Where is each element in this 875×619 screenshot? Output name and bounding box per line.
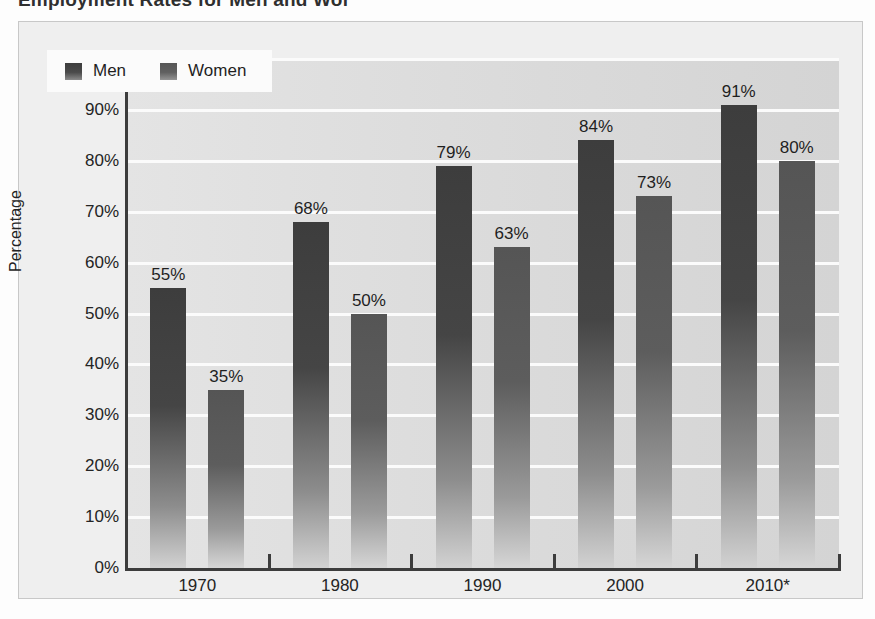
bar-value-label: 91%: [722, 82, 756, 102]
bar-women-1970: 35%: [208, 390, 244, 568]
bar-value-label: 84%: [579, 117, 613, 137]
legend-item-women: Women: [160, 61, 246, 81]
bar-value-label: 68%: [294, 199, 328, 219]
legend-swatch-men-icon: [65, 63, 82, 80]
bar-men-1980: 68%: [293, 222, 329, 568]
cut-off-title-text: Employment Rates for Men and Women: [18, 0, 348, 11]
x-axis-label-1980: 1980: [280, 576, 400, 596]
bar-value-label: 35%: [209, 367, 243, 387]
bar-value-label: 50%: [352, 291, 386, 311]
x-axis-tick: [410, 554, 413, 571]
legend-swatch-women-icon: [160, 63, 177, 80]
bar-women-1990: 63%: [494, 247, 530, 568]
bar-value-label: 63%: [494, 224, 528, 244]
y-axis-tick-label: 80%: [57, 151, 119, 171]
y-axis-tick-label: 30%: [57, 405, 119, 425]
bar-value-label: 73%: [637, 173, 671, 193]
x-axis-tick: [125, 554, 128, 571]
x-axis-tick: [695, 554, 698, 571]
y-axis-tick-label: 70%: [57, 202, 119, 222]
bar-value-label: 80%: [780, 138, 814, 158]
y-axis-tick-label: 40%: [57, 354, 119, 374]
chart-legend: MenWomen: [47, 50, 272, 92]
bar-men-1990: 79%: [436, 166, 472, 568]
x-axis-label-1970: 1970: [137, 576, 257, 596]
y-axis-tick-labels: 100%90%80%70%60%50%40%30%20%10%0%: [51, 59, 119, 568]
y-axis-tick-label: 90%: [57, 100, 119, 120]
bar-value-label: 55%: [151, 265, 185, 285]
y-axis-line: [125, 56, 128, 571]
bar-men-2000: 84%: [578, 140, 614, 568]
chart-figure: 100%90%80%70%60%50%40%30%20%10%0% Percen…: [18, 21, 863, 599]
bar-value-label: 79%: [436, 143, 470, 163]
x-axis-tick: [838, 554, 841, 571]
bar-women-1980: 50%: [351, 314, 387, 569]
y-axis-title: Percentage: [7, 190, 25, 272]
y-axis-tick-label: 60%: [57, 253, 119, 273]
legend-item-men: Men: [65, 61, 126, 81]
x-axis-label-2000: 2000: [565, 576, 685, 596]
scanned-page: Employment Rates for Men and Women 100%9…: [0, 0, 875, 619]
y-axis-tick-label: 10%: [57, 507, 119, 527]
y-axis-tick-label: 50%: [57, 304, 119, 324]
x-axis-tick: [553, 554, 556, 571]
x-axis-label-1990: 1990: [423, 576, 543, 596]
bar-women-2000: 73%: [636, 196, 672, 568]
x-axis-line: [125, 568, 841, 571]
bar-men-2010: 91%: [721, 105, 757, 568]
x-axis-label-2010: 2010*: [708, 576, 828, 596]
y-axis-tick-label: 20%: [57, 456, 119, 476]
y-axis-tick-label: 0%: [57, 558, 119, 578]
bar-men-1970: 55%: [150, 288, 186, 568]
cut-off-title: Employment Rates for Men and Women: [18, 0, 348, 13]
bar-women-2010: 80%: [779, 161, 815, 568]
plot-area: 55%35%68%50%79%63%84%73%91%80%: [126, 59, 839, 568]
legend-label: Women: [188, 61, 246, 81]
x-axis-tick: [268, 554, 271, 571]
legend-label: Men: [93, 61, 126, 81]
